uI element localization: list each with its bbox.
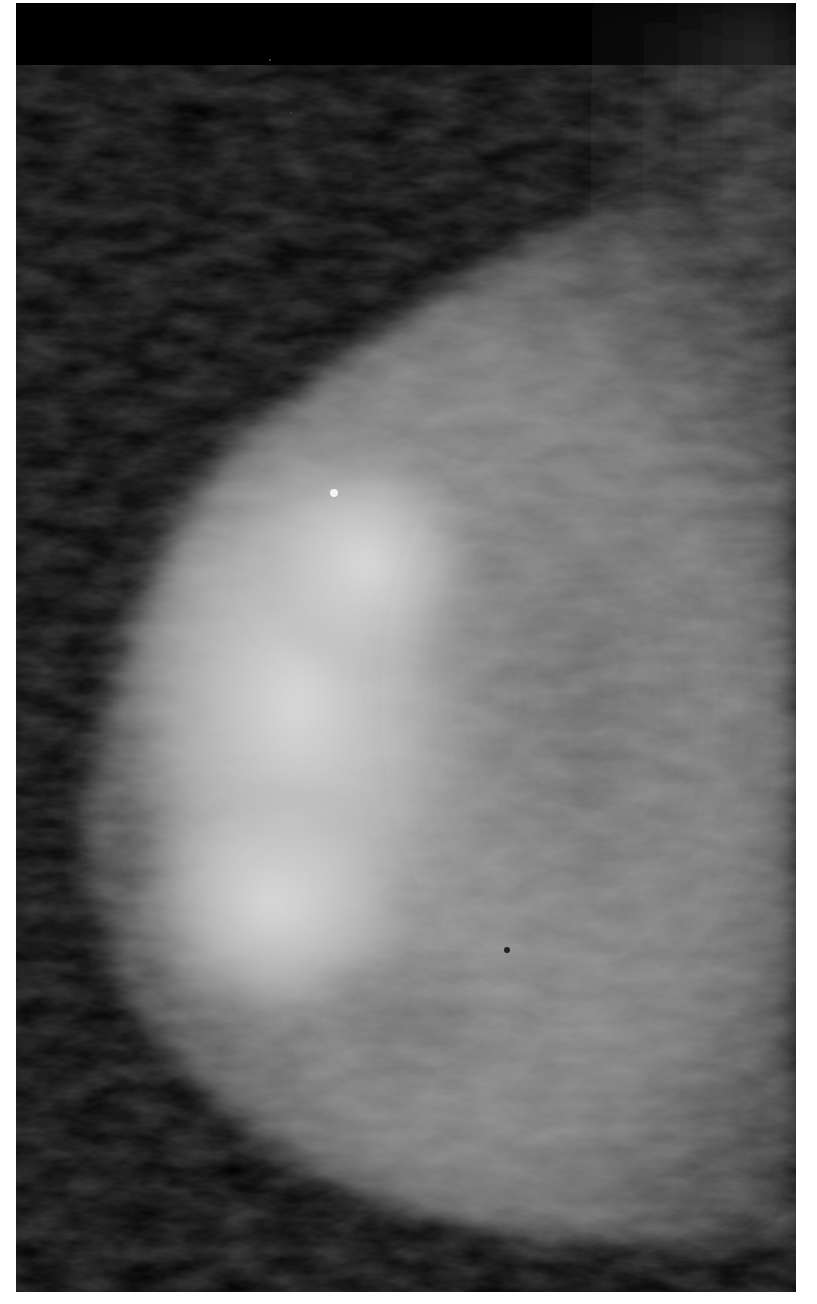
mammogram-image	[16, 3, 796, 1292]
calcification-marker	[330, 489, 338, 497]
breast-tissue-rendering	[16, 3, 796, 1292]
dark-spot	[504, 947, 510, 953]
